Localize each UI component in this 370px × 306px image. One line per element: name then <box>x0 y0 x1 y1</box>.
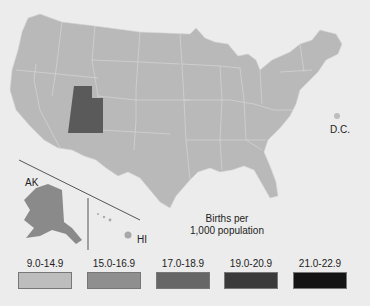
legend-item: 9.0-14.9 <box>18 258 72 289</box>
label-hi: HI <box>137 234 147 245</box>
legend-item: 17.0-18.9 <box>156 258 210 289</box>
legend-swatch <box>18 272 72 289</box>
label-dc: D.C. <box>330 124 350 135</box>
legend-swatch <box>224 272 278 289</box>
legend-note: Births per 1,000 population <box>190 213 264 237</box>
state-alaska <box>24 184 82 244</box>
note-line-1: Births per <box>206 213 249 224</box>
label-ak: AK <box>25 177 38 188</box>
legend-label: 15.0-16.9 <box>87 258 141 269</box>
state-hawaii <box>97 213 132 239</box>
dc-marker <box>334 113 340 119</box>
legend-swatch <box>87 272 141 289</box>
note-line-2: 1,000 population <box>190 225 264 236</box>
legend-label: 9.0-14.9 <box>18 258 72 269</box>
legend-swatch <box>293 272 347 289</box>
legend-swatch <box>156 272 210 289</box>
legend-item: 21.0-22.9 <box>293 258 347 289</box>
legend-label: 17.0-18.9 <box>156 258 210 269</box>
legend-item: 19.0-20.9 <box>224 258 278 289</box>
contiguous-us <box>10 14 342 208</box>
legend-item: 15.0-16.9 <box>87 258 141 289</box>
legend-label: 21.0-22.9 <box>293 258 347 269</box>
legend-label: 19.0-20.9 <box>224 258 278 269</box>
